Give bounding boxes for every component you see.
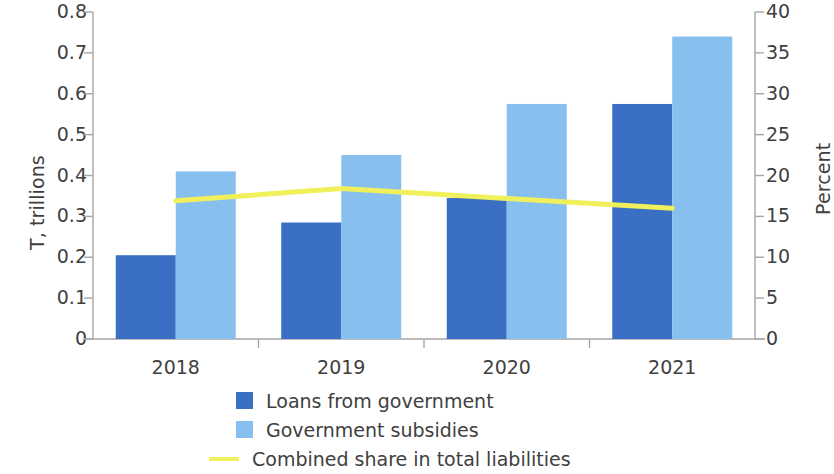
legend-item-subsidies: Government subsidies (0, 415, 817, 444)
bar-loans-2019 (281, 223, 341, 339)
legend-line-marker-combined-share (209, 457, 239, 461)
chart-legend: Loans from government Government subsidi… (0, 386, 817, 473)
legend-item-loans: Loans from government (0, 386, 817, 415)
bar-group (116, 37, 733, 339)
line-combined-share (176, 189, 673, 209)
bar-loans-2020 (447, 198, 507, 339)
legend-label-loans: Loans from government (266, 390, 494, 412)
legend-swatch-loans (236, 392, 253, 409)
legend-label-subsidies: Government subsidies (266, 419, 479, 441)
bar-loans-2018 (116, 255, 176, 339)
bar-subsidies-2019 (341, 155, 401, 339)
bar-loans-2021 (612, 104, 672, 339)
legend-item-combined-share: Combined share in total liabilities (0, 444, 817, 473)
bar-subsidies-2021 (672, 37, 732, 339)
legend-label-combined-share: Combined share in total liabilities (252, 448, 571, 470)
line-series-group (176, 189, 673, 209)
bar-subsidies-2020 (507, 104, 567, 339)
legend-swatch-subsidies (236, 421, 253, 438)
